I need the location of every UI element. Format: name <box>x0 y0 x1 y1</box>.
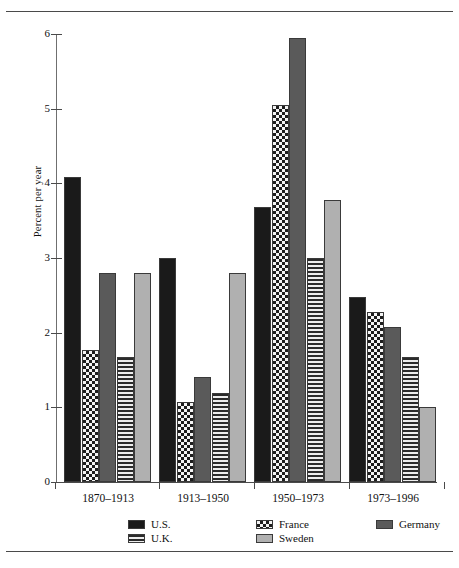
bar-uk-3 <box>402 357 419 482</box>
top-rule <box>6 11 453 12</box>
legend-item-us[interactable]: U.S. <box>128 518 171 530</box>
bar-uk-0 <box>117 357 134 482</box>
y-tick-label: 5 <box>10 103 50 114</box>
y-tick-label: 3 <box>10 252 50 263</box>
bar-group <box>349 34 437 482</box>
bar-france-3 <box>367 312 384 482</box>
x-tick-1 <box>254 482 255 489</box>
y-tick-label: 6 <box>10 28 50 39</box>
bar-us-2 <box>254 207 271 482</box>
bar-sweden-0 <box>134 273 151 482</box>
bottom-rule <box>6 551 453 552</box>
bar-us-3 <box>349 297 366 482</box>
figure-container: 0123456 Percent per year 1870–19131913–1… <box>0 0 459 568</box>
x-tick-0 <box>159 482 160 489</box>
legend-item-france[interactable]: France <box>256 518 309 530</box>
bar-germany-3 <box>384 327 401 482</box>
bar-us-0 <box>64 177 81 482</box>
bar-germany-1 <box>194 377 211 482</box>
bar-group <box>159 34 247 482</box>
legend-label: U.K. <box>151 533 172 544</box>
legend-swatch-icon <box>128 534 145 543</box>
legend-label: France <box>279 519 309 530</box>
bar-germany-0 <box>99 273 116 482</box>
legend-label: Germany <box>399 519 440 530</box>
x-axis-line <box>56 482 437 483</box>
y-tick-label: 1 <box>10 401 50 412</box>
x-tick-3 <box>444 482 445 489</box>
legend-item-sweden[interactable]: Sweden <box>256 532 314 544</box>
bar-france-1 <box>177 402 194 482</box>
y-axis-title: Percent per year <box>32 127 43 277</box>
bar-group <box>254 34 342 482</box>
y-tick-label: 4 <box>10 177 50 188</box>
bar-france-2 <box>272 105 289 482</box>
legend-item-uk[interactable]: U.K. <box>128 532 172 544</box>
y-tick-label: 2 <box>10 327 50 338</box>
bar-sweden-1 <box>229 273 246 482</box>
legend-swatch-icon <box>128 520 145 529</box>
x-tick-origin <box>55 482 56 489</box>
legend-swatch-icon <box>256 520 273 529</box>
x-group-label-3: 1973–1996 <box>333 492 453 505</box>
legend-swatch-icon <box>376 520 393 529</box>
bar-france-0 <box>82 350 99 482</box>
legend-label: U.S. <box>151 519 171 530</box>
bar-group <box>64 34 152 482</box>
bar-us-1 <box>159 258 176 482</box>
bar-sweden-2 <box>324 200 341 482</box>
y-tick-label: 0 <box>10 476 50 487</box>
legend-label: Sweden <box>279 533 314 544</box>
y-tick-0 <box>51 482 62 483</box>
legend: U.S.FranceGermanyU.K.Sweden <box>56 518 437 546</box>
bar-uk-2 <box>307 258 324 482</box>
plot-area <box>56 34 437 482</box>
legend-item-germany[interactable]: Germany <box>376 518 440 530</box>
legend-swatch-icon <box>256 534 273 543</box>
bar-uk-1 <box>212 393 229 482</box>
x-tick-2 <box>349 482 350 489</box>
bar-germany-2 <box>289 38 306 482</box>
bar-sweden-3 <box>419 407 436 482</box>
